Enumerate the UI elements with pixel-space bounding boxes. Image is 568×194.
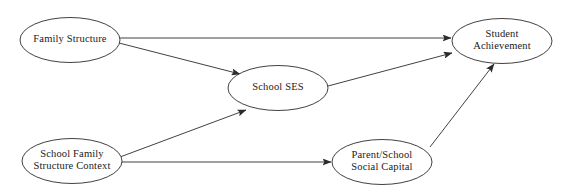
node-parent-school-social-capital: Parent/SchoolSocial Capital [332, 140, 432, 185]
edge-school-family-structure-context-to-school-ses [120, 110, 246, 157]
node-family-structure: Family Structure [20, 18, 120, 63]
node-label: School SES [252, 81, 303, 92]
node-school-ses: School SES [228, 66, 328, 111]
node-student-achievement: StudentAchievement [452, 19, 552, 64]
edge-school-ses-to-student-achievement [328, 53, 452, 86]
node-label: School FamilyStructure Context [34, 148, 111, 172]
nodes-group: Family Structure School SES StudentAchie… [20, 18, 552, 185]
edge-parent-school-social-capital-to-student-achievement [430, 64, 494, 147]
path-diagram-container: Family Structure School SES StudentAchie… [0, 0, 568, 194]
node-label: Parent/SchoolSocial Capital [351, 149, 412, 173]
path-diagram-canvas: Family Structure School SES StudentAchie… [0, 0, 568, 194]
edge-family-structure-to-school-ses [119, 43, 240, 74]
node-school-family-structure-context: School FamilyStructure Context [22, 139, 122, 184]
node-label: Family Structure [33, 33, 106, 44]
